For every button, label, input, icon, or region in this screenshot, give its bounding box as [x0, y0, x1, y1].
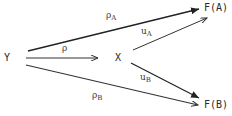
label-rho: ρ: [62, 44, 67, 53]
diagram-canvas: Y X F(A) F(B) ρ ρA ρB uA uB: [0, 0, 232, 116]
node-f-a: F(A): [204, 3, 228, 13]
label-u-a-sub: A: [147, 30, 152, 38]
label-u-b-sub: B: [146, 76, 151, 84]
label-rho-text: ρ: [62, 43, 67, 53]
label-rho-a: ρA: [106, 11, 116, 22]
node-f-b: F(B): [204, 100, 228, 110]
label-rho-b-sub: B: [97, 94, 102, 102]
label-u-a: uA: [141, 27, 152, 38]
node-y: Y: [4, 53, 10, 63]
arrow-rho-b: [26, 65, 198, 105]
node-x: X: [115, 53, 121, 63]
label-u-b: uB: [140, 73, 151, 84]
label-rho-b: ρB: [92, 91, 102, 102]
label-rho-a-sub: A: [111, 14, 116, 22]
